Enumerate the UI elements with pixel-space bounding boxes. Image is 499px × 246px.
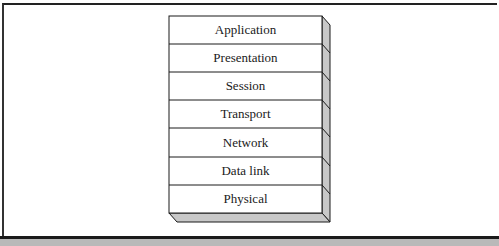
layer-application: Application	[169, 16, 322, 44]
layer-data-link: Data link	[169, 157, 322, 185]
layer-network: Network	[169, 129, 322, 157]
caption-bar	[0, 239, 499, 246]
layer-transport: Transport	[169, 100, 322, 128]
layer-physical: Physical	[169, 185, 322, 213]
layer-session: Session	[169, 72, 322, 100]
layer-presentation: Presentation	[169, 44, 322, 72]
